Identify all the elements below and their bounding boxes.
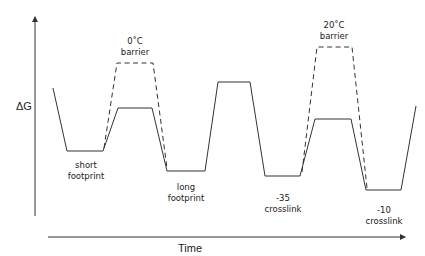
state-label-short-footprint: short footprint <box>60 160 112 182</box>
barrier-20c-dashed <box>302 47 367 188</box>
state-label-35-crosslink: -35 crosslink <box>257 193 309 215</box>
state-label-10-crosslink: -10 crosslink <box>358 205 410 227</box>
barrier-label-20c: 20˚C barrier <box>311 20 357 42</box>
barrier-0c-dashed <box>104 63 167 168</box>
x-axis-label: Time <box>178 242 202 254</box>
barrier-label-0c: 0˚C barrier <box>112 36 158 58</box>
y-axis-label: ΔG <box>16 100 32 112</box>
state-label-long-footprint: long footprint <box>160 182 212 204</box>
